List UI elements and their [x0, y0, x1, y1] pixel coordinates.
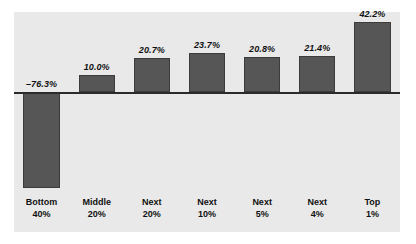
bar-value-label: 20.7%	[134, 45, 170, 55]
bar-value-label: 21.4%	[299, 43, 335, 53]
category-axis-labels: Bottom40%Middle20%Next20%Next10%Next5%Ne…	[14, 196, 400, 230]
bar-slot: 42.2%	[354, 12, 390, 193]
bar-slot: 10.0%	[79, 12, 115, 193]
category-label: Next20%	[124, 196, 179, 220]
bar[interactable]	[134, 58, 170, 93]
category-label: Middle20%	[69, 196, 124, 220]
bar-value-label: 20.8%	[244, 44, 280, 54]
category-label-line2: 40%	[14, 208, 69, 220]
plot-area: –76.3%10.0%20.7%23.7%20.8%21.4%42.2%	[14, 12, 400, 193]
category-label-line2: 20%	[124, 208, 179, 220]
bar-value-label: 10.0%	[79, 62, 115, 72]
category-label-line2: 1%	[345, 208, 400, 220]
category-label-line1: Next	[179, 196, 234, 208]
bar-slot: 23.7%	[189, 12, 225, 193]
category-label-line1: Next	[124, 196, 179, 208]
category-label-line2: 5%	[235, 208, 290, 220]
bar-value-label: 42.2%	[354, 9, 390, 19]
bar[interactable]	[79, 75, 115, 92]
bar-slot: –76.3%	[23, 12, 59, 193]
category-label: Top1%	[345, 196, 400, 220]
category-label: Next4%	[290, 196, 345, 220]
category-label-line1: Top	[345, 196, 400, 208]
bar[interactable]	[23, 92, 59, 188]
category-label-line1: Next	[235, 196, 290, 208]
bar[interactable]	[189, 53, 225, 93]
zero-baseline	[14, 92, 400, 94]
bar-series: –76.3%10.0%20.7%23.7%20.8%21.4%42.2%	[14, 12, 400, 193]
bar-slot: 20.8%	[244, 12, 280, 193]
category-label-line1: Bottom	[14, 196, 69, 208]
bar-slot: 20.7%	[134, 12, 170, 193]
bar[interactable]	[354, 22, 390, 92]
category-label: Bottom40%	[14, 196, 69, 220]
bar[interactable]	[299, 56, 335, 92]
category-label: Next10%	[179, 196, 234, 220]
bar-value-label: 23.7%	[189, 40, 225, 50]
category-label-line2: 20%	[69, 208, 124, 220]
bar-value-label: –76.3%	[23, 79, 59, 89]
category-label-line2: 10%	[179, 208, 234, 220]
bar[interactable]	[244, 57, 280, 92]
category-label-line2: 4%	[290, 208, 345, 220]
category-label-line1: Next	[290, 196, 345, 208]
bar-chart: –76.3%10.0%20.7%23.7%20.8%21.4%42.2% Bot…	[0, 0, 416, 244]
category-label-line1: Middle	[69, 196, 124, 208]
category-label: Next5%	[235, 196, 290, 220]
bar-slot: 21.4%	[299, 12, 335, 193]
